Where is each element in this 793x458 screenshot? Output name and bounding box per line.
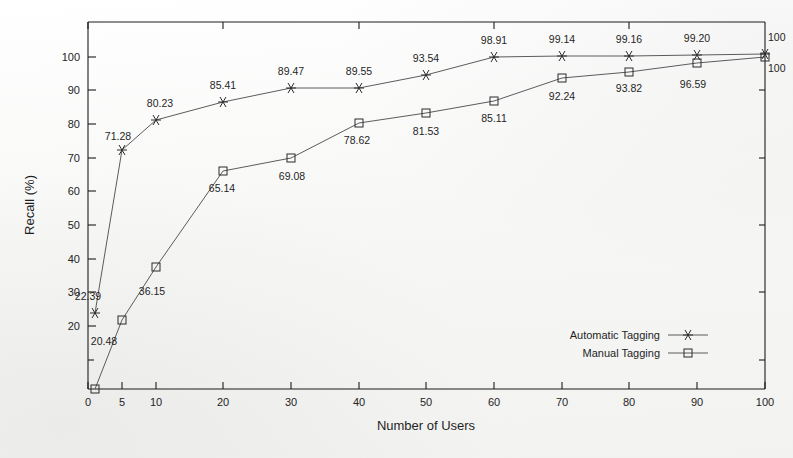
- series-manual-tagging: 20.48 36.15 65.14 69.08 78.62 81.53 85.1…: [91, 53, 786, 393]
- x-tick-label-90: 90: [691, 396, 703, 408]
- x-tick-label-60: 60: [488, 396, 500, 408]
- point-label-auto-60: 98.91: [481, 34, 507, 46]
- legend-label-automatic-tagging: Automatic Tagging: [570, 329, 660, 341]
- y-axis-ticks: 100 90 80 70 60 50 40 30 20: [62, 51, 96, 360]
- asterisk-marker: [557, 51, 567, 61]
- x-tick-label-0: 0: [85, 396, 91, 408]
- x-tick-label-10: 10: [150, 396, 162, 408]
- x-tick-label-30: 30: [285, 396, 297, 408]
- x-tick-label-100: 100: [756, 396, 774, 408]
- point-label-auto-10: 80.23: [147, 97, 173, 109]
- x-tick-label-50: 50: [420, 396, 432, 408]
- x-axis-title: Number of Users: [377, 418, 476, 433]
- point-label-auto-1: 22.39: [75, 290, 101, 302]
- point-label-auto-50: 93.54: [413, 52, 439, 64]
- y-tick-label-100: 100: [62, 51, 80, 63]
- asterisk-marker: [489, 52, 499, 62]
- asterisk-marker: [286, 83, 296, 93]
- legend-entry-automatic-tagging[interactable]: [668, 330, 708, 340]
- point-label-auto-5: 71.28: [105, 130, 131, 142]
- point-label-auto-70: 99.14: [549, 33, 575, 45]
- point-label-manual-1: 20.48: [91, 335, 117, 347]
- point-label-manual-60: 85.11: [481, 112, 507, 124]
- chart-page: 100 90 80 70 60 50 40 30 20: [0, 0, 793, 458]
- y-tick-label-80: 80: [68, 118, 80, 130]
- point-label-manual-40: 78.62: [344, 134, 370, 146]
- x-tick-label-20: 20: [217, 396, 229, 408]
- x-tick-label-40: 40: [353, 396, 365, 408]
- point-label-manual-100: 100: [768, 62, 786, 74]
- asterisk-marker: [218, 97, 228, 107]
- asterisk-marker: [683, 330, 693, 340]
- point-label-manual-20: 65.14: [209, 182, 235, 194]
- x-tick-label-5: 5: [119, 396, 125, 408]
- y-axis-title: Recall (%): [22, 175, 37, 235]
- x-axis-ticks: 0 5 10 20 30 40 50 60 70 80 90 100: [85, 22, 774, 408]
- asterisk-marker: [354, 83, 364, 93]
- series-automatic-tagging: 22.39 71.28 80.23 85.41 89.47 89.55 93.5…: [75, 31, 786, 318]
- point-label-auto-20: 85.41: [210, 79, 236, 91]
- point-label-auto-100: 100: [768, 31, 786, 43]
- x-tick-label-70: 70: [556, 396, 568, 408]
- asterisk-marker: [90, 308, 100, 318]
- point-label-auto-30: 89.47: [278, 65, 304, 77]
- point-label-manual-70: 92.24: [549, 90, 575, 102]
- point-label-manual-30: 69.08: [279, 170, 305, 182]
- x-tick-label-80: 80: [623, 396, 635, 408]
- y-tick-label-50: 50: [68, 219, 80, 231]
- y-tick-label-20: 20: [68, 320, 80, 332]
- point-label-auto-80: 99.16: [616, 33, 642, 45]
- automatic-tagging-markers: [90, 49, 770, 318]
- chart-legend: Automatic Tagging Manual Tagging: [570, 329, 708, 359]
- y-tick-label-60: 60: [68, 185, 80, 197]
- y-tick-label-90: 90: [68, 84, 80, 96]
- manual-tagging-point-labels: 20.48 36.15 65.14 69.08 78.62 81.53 85.1…: [91, 62, 786, 347]
- point-label-auto-90: 99.20: [684, 32, 710, 44]
- point-label-manual-50: 81.53: [413, 125, 439, 137]
- plot-frame: [88, 22, 765, 389]
- automatic-tagging-point-labels: 22.39 71.28 80.23 85.41 89.47 89.55 93.5…: [75, 31, 786, 302]
- point-label-auto-40: 89.55: [346, 65, 372, 77]
- point-label-manual-90: 96.59: [680, 78, 706, 90]
- y-tick-label-70: 70: [68, 152, 80, 164]
- right-axis-ticks: [759, 90, 765, 360]
- asterisk-marker: [421, 70, 431, 80]
- automatic-tagging-line: [95, 54, 765, 313]
- manual-tagging-markers: [91, 53, 769, 393]
- y-tick-label-40: 40: [68, 253, 80, 265]
- asterisk-marker: [624, 51, 634, 61]
- point-label-manual-5: 36.15: [139, 285, 165, 297]
- legend-label-manual-tagging: Manual Tagging: [583, 347, 660, 359]
- legend-entry-manual-tagging[interactable]: [668, 349, 708, 357]
- recall-vs-users-line-chart: 100 90 80 70 60 50 40 30 20: [0, 0, 793, 458]
- point-label-manual-80: 93.82: [616, 82, 642, 94]
- manual-tagging-line: [95, 57, 765, 389]
